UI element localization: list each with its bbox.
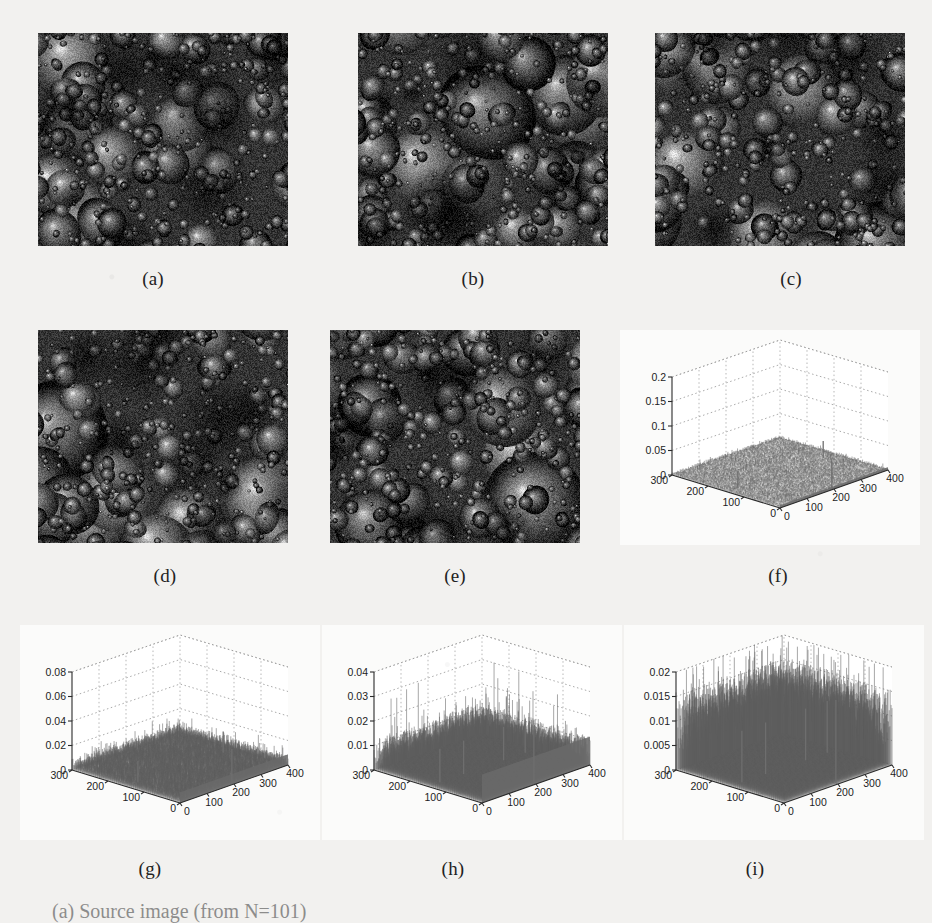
z-tick-label: 0.005	[644, 739, 670, 751]
micrograph-d	[38, 330, 288, 543]
z-tick-label: 0.2	[651, 371, 666, 383]
z-tick-label: 0.15	[646, 395, 667, 407]
y-tick-label: 200	[686, 485, 704, 497]
x-tick-label: 0	[784, 510, 790, 522]
y-tick-label: 300	[352, 769, 370, 781]
z-tick-label: 0.015	[644, 690, 670, 702]
y-tick-label: 100	[722, 496, 740, 508]
y-tick-label: 0	[770, 507, 776, 519]
x-tick-label: 200	[232, 786, 250, 798]
micrograph-canvas	[358, 33, 608, 246]
z-tick-label: 0.03	[348, 690, 369, 702]
z-tick-label: 0.08	[46, 666, 67, 678]
plot-i: 00.0050.010.0150.02300200100001002003004…	[624, 625, 924, 840]
plot-i-canvas: 00.0050.010.0150.02300200100001002003004…	[624, 625, 924, 840]
x-tick-label: 400	[588, 767, 606, 779]
z-tick-label: 0.06	[46, 690, 67, 702]
panel-label-f: (f)	[738, 565, 818, 587]
y-tick-label: 300	[50, 769, 68, 781]
y-tick-label: 100	[424, 791, 442, 803]
micrograph-canvas	[330, 330, 580, 543]
z-tick-label: 0.01	[650, 715, 671, 727]
figure-caption: (a) Source image (from N=101)	[52, 900, 307, 923]
z-tick-label: 0.02	[650, 666, 671, 678]
x-tick-label: 100	[507, 796, 525, 808]
z-tick-label: 0.01	[348, 739, 369, 751]
panel-label-a: (a)	[113, 268, 193, 290]
micrograph-canvas	[38, 33, 288, 246]
x-tick-label: 200	[836, 786, 854, 798]
micrograph-a	[38, 33, 288, 246]
plot-f-canvas: 00.050.10.150.230020010000100200300400	[620, 330, 920, 545]
panel-label-i: (i)	[715, 858, 795, 880]
z-tick-label: 0.05	[646, 444, 667, 456]
x-tick-label: 400	[886, 472, 904, 484]
panel-label-d: (d)	[125, 565, 205, 587]
plot-g-canvas: 00.020.040.060.0830020010000100200300400	[20, 625, 320, 840]
y-tick-label: 200	[388, 780, 406, 792]
x-tick-label: 300	[259, 777, 277, 789]
plot-h-canvas: 00.010.020.030.0430020010000100200300400	[322, 625, 622, 840]
z-tick-label: 0.02	[46, 739, 67, 751]
y-tick-label: 200	[86, 780, 104, 792]
x-tick-label: 100	[205, 796, 223, 808]
z-tick-label: 0.1	[651, 420, 666, 432]
y-tick-label: 0	[472, 802, 478, 814]
y-tick-label: 100	[122, 791, 140, 803]
z-tick-label: 0.02	[348, 715, 369, 727]
micrograph-e	[330, 330, 580, 543]
y-tick-label: 0	[170, 802, 176, 814]
y-tick-label: 200	[690, 780, 708, 792]
plot-h: 00.010.020.030.0430020010000100200300400	[322, 625, 622, 840]
x-tick-label: 0	[486, 805, 492, 817]
y-tick-label: 100	[726, 791, 744, 803]
x-tick-label: 300	[863, 777, 881, 789]
plot-f: 00.050.10.150.230020010000100200300400	[620, 330, 920, 545]
y-tick-label: 0	[774, 802, 780, 814]
x-tick-label: 200	[534, 786, 552, 798]
micrograph-canvas	[38, 330, 288, 543]
panel-label-h: (h)	[413, 858, 493, 880]
z-tick-label: 0.04	[46, 715, 67, 727]
z-tick-label: 0.04	[348, 666, 369, 678]
panel-label-e: (e)	[415, 565, 495, 587]
x-tick-label: 300	[561, 777, 579, 789]
panel-label-b: (b)	[433, 268, 513, 290]
panel-label-g: (g)	[110, 858, 190, 880]
y-tick-label: 300	[650, 474, 668, 486]
panel-label-c: (c)	[751, 268, 831, 290]
x-tick-label: 0	[788, 805, 794, 817]
x-tick-label: 300	[859, 482, 877, 494]
x-tick-label: 100	[805, 501, 823, 513]
micrograph-b	[358, 33, 608, 246]
x-tick-label: 200	[832, 491, 850, 503]
micrograph-c	[655, 33, 905, 246]
x-tick-label: 100	[809, 796, 827, 808]
y-tick-label: 300	[654, 769, 672, 781]
plot-g: 00.020.040.060.0830020010000100200300400	[20, 625, 320, 840]
x-tick-label: 400	[890, 767, 908, 779]
x-tick-label: 0	[184, 805, 190, 817]
micrograph-canvas	[655, 33, 905, 246]
x-tick-label: 400	[286, 767, 304, 779]
